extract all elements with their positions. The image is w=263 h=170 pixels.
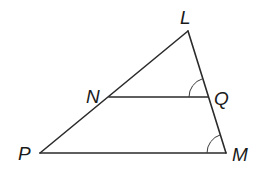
vertex-label-P: P <box>18 143 31 164</box>
angle-arc-M <box>207 135 220 153</box>
segment-LP <box>40 31 188 153</box>
vertex-label-N: N <box>86 86 100 107</box>
angle-arc-Q <box>189 79 202 97</box>
triangle-figure: L N Q P M <box>0 0 263 170</box>
vertex-label-L: L <box>180 7 191 28</box>
geometry-diagram: L N Q P M <box>0 0 263 170</box>
vertex-label-M: M <box>232 144 248 165</box>
vertex-label-Q: Q <box>214 88 229 109</box>
